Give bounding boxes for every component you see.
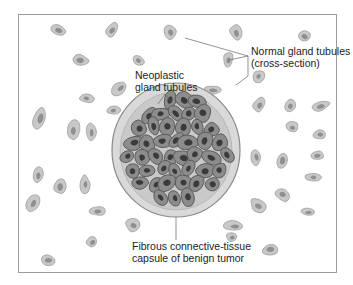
- label-neoplastic-gland-tubules: Neoplastic gland tubules: [135, 70, 197, 93]
- neoplastic-gland-tubule: [139, 165, 155, 177]
- normal-gland-tubule: [251, 150, 261, 166]
- normal-gland-tubule: [107, 106, 121, 114]
- benign-tumor: [112, 83, 240, 217]
- normal-gland-tubule: [89, 207, 105, 216]
- label-normal-gland-tubules: Normal gland tubules (cross-section): [251, 46, 350, 69]
- label-normal-line1: Normal gland tubules: [251, 46, 350, 58]
- label-neoplastic-line2: gland tubules: [135, 82, 197, 94]
- normal-gland-tubule: [305, 173, 322, 181]
- label-normal-line2: (cross-section): [251, 58, 350, 70]
- label-capsule-line2: capsule of benign tumor: [132, 253, 251, 265]
- neoplastic-gland-tubule: [135, 149, 150, 165]
- label-neoplastic-line1: Neoplastic: [135, 70, 197, 82]
- diagram-stage: Normal gland tubules (cross-section) Neo…: [0, 0, 353, 285]
- neoplastic-gland-tubule: [126, 164, 139, 179]
- label-capsule-line1: Fibrous connective-tissue: [132, 241, 251, 253]
- label-fibrous-capsule: Fibrous connective-tissue capsule of ben…: [132, 241, 251, 264]
- normal-gland-tubule: [299, 31, 311, 41]
